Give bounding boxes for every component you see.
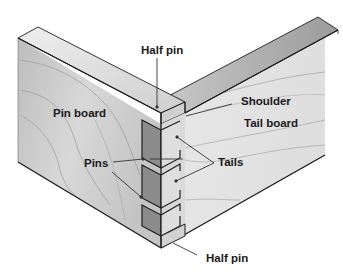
tail-board <box>161 17 338 248</box>
label-half-pin-top: Half pin <box>141 45 183 57</box>
dovetail-diagram: Half pin Pin board Shoulder Tail board P… <box>0 0 343 277</box>
label-shoulder: Shoulder <box>241 96 291 108</box>
label-half-pin-bottom: Half pin <box>206 253 248 265</box>
label-tails: Tails <box>218 157 243 169</box>
label-pins: Pins <box>84 158 108 170</box>
label-tail-board: Tail board <box>244 118 298 130</box>
joint <box>142 102 185 248</box>
label-pin-board: Pin board <box>53 108 106 120</box>
dovetail-illustration <box>0 0 343 277</box>
